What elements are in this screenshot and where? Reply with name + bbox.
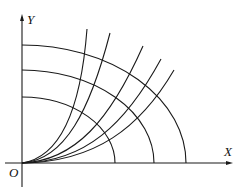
ellipse-inner — [22, 97, 115, 163]
x-axis-label: X — [223, 144, 233, 159]
diagram-canvas: Y X O — [0, 0, 251, 196]
y-axis-arrow-icon — [20, 14, 24, 21]
curve-5 — [22, 70, 174, 163]
x-axis-arrow-icon — [226, 161, 233, 165]
curve-4 — [22, 59, 161, 163]
y-axis-label: Y — [27, 12, 36, 27]
origin-label: O — [9, 165, 19, 180]
ellipse-outer — [22, 45, 186, 163]
diagram: Y X O — [0, 0, 251, 196]
